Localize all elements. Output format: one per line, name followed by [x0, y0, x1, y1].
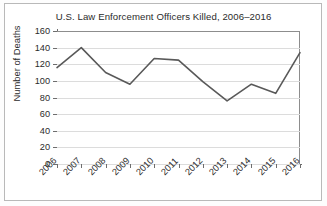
- line-series-deaths: [57, 48, 300, 101]
- x-tick-mark: [251, 164, 252, 168]
- y-tick-label: 100: [18, 76, 50, 86]
- x-tick-mark: [154, 164, 155, 168]
- y-tick-label: 140: [18, 43, 50, 53]
- x-tick-mark: [300, 164, 301, 168]
- y-tick-label: 120: [18, 59, 50, 69]
- x-tick-mark: [130, 164, 131, 168]
- y-tick-mark: [53, 81, 57, 82]
- x-tick-mark: [106, 164, 107, 168]
- y-tick-mark: [53, 64, 57, 65]
- y-tick-mark: [53, 31, 57, 32]
- line-series-layer: [57, 31, 300, 164]
- y-tick-mark: [53, 131, 57, 132]
- chart-title: U.S. Law Enforcement Officers Killed, 20…: [0, 11, 327, 22]
- plot-area: [57, 31, 300, 164]
- y-tick-label: 80: [18, 93, 50, 103]
- y-tick-label: 60: [18, 109, 50, 119]
- x-tick-mark: [227, 164, 228, 168]
- x-tick-mark: [203, 164, 204, 168]
- x-tick-mark: [276, 164, 277, 168]
- y-tick-mark: [53, 114, 57, 115]
- x-tick-mark: [81, 164, 82, 168]
- y-tick-label: 20: [18, 142, 50, 152]
- y-tick-mark: [53, 98, 57, 99]
- y-tick-mark: [53, 147, 57, 148]
- y-tick-label: 40: [18, 126, 50, 136]
- x-tick-mark: [57, 164, 58, 168]
- y-tick-mark: [53, 48, 57, 49]
- x-tick-mark: [179, 164, 180, 168]
- chart-figure: U.S. Law Enforcement Officers Killed, 20…: [0, 0, 327, 206]
- y-tick-label: 160: [18, 26, 50, 36]
